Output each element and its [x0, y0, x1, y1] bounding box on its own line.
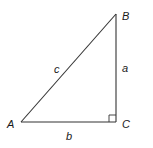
side-label-c: c [54, 63, 60, 75]
side-label-a: a [122, 62, 128, 74]
side-label-b: b [66, 130, 72, 142]
vertex-label-a: A [6, 118, 14, 130]
right-angle-marker [109, 115, 116, 122]
vertex-label-b: B [122, 10, 129, 22]
right-triangle-diagram: B A C a b c [0, 0, 153, 148]
side-c-hypotenuse [21, 14, 116, 122]
vertex-label-c: C [122, 118, 130, 130]
